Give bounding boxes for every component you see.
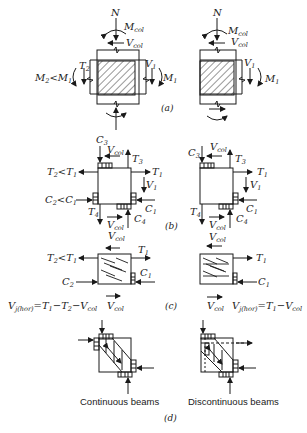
label-Mcol-left: Mcol [123, 21, 144, 34]
label-Vcol-left: Vcol [126, 37, 143, 50]
label-T4-left: T4 [88, 206, 99, 219]
panel-label-a: (a) [161, 103, 174, 113]
label-C1-b-right: C1 [246, 203, 258, 216]
label-T3-left: T3 [132, 153, 143, 166]
label-N-right: N [212, 7, 223, 18]
label-C4-left: C4 [134, 213, 146, 226]
label-Vcol-b-right-top: Vcol [210, 141, 227, 154]
caption-discontinuous-beams: Discontinuous beams [188, 396, 279, 407]
label-Vcol-c-right-bottom: Vcol [207, 300, 224, 313]
label-M2-lt-M1: M2<M1 [34, 72, 72, 85]
label-M1-left: M1 [162, 72, 177, 85]
label-Vcol-c-left-bottom: Vcol [107, 300, 124, 313]
label-V1-b-right: V1 [250, 179, 261, 192]
equation-right: Vj(hor)=T1−Vcol [232, 300, 302, 313]
label-T1-b-right: T1 [257, 166, 268, 179]
label-C4-right: C4 [236, 213, 248, 226]
label-C1-b-left: C1 [145, 203, 157, 216]
label-T1-c-right: T1 [256, 252, 267, 265]
label-T3-right: T3 [235, 153, 246, 166]
label-C2-lt-C1: C2<C1 [45, 194, 77, 207]
joint-forces-diagram: N Mcol Vcol T2 V1 M2<M1 M1 N Mcol Vcol V… [0, 0, 307, 433]
label-M1-right: M1 [264, 73, 279, 86]
equation-left: Vj(hor)=T1−T2−Vcol [8, 300, 97, 313]
label-C3-right: C3 [188, 147, 200, 160]
label-C1-c-left: C1 [140, 267, 152, 280]
panel-a-left [73, 18, 162, 130]
panel-label-b: (b) [165, 221, 178, 231]
label-C2-c: C2 [62, 276, 74, 289]
label-Vcol-b-left-top: Vcol [107, 144, 124, 157]
panel-c-right [200, 246, 257, 297]
caption-continuous-beams: Continuous beams [80, 396, 159, 407]
label-T1-b-left: T1 [152, 166, 163, 179]
label-T1-c-left: T1 [138, 244, 149, 257]
label-Vcol-c-right-top: Vcol [209, 231, 226, 244]
panel-label-d: (d) [164, 413, 177, 423]
panel-d-left [78, 320, 154, 394]
label-T2-lt-T1: T2<T1 [47, 166, 77, 179]
label-N-left: N [110, 7, 121, 18]
panel-b-right [200, 146, 257, 228]
panel-d-right [201, 320, 256, 394]
label-V1-b-left: V1 [146, 179, 157, 192]
label-T2-lt-T1-c: T2<T1 [47, 252, 77, 265]
label-T4-right: T4 [190, 206, 201, 219]
label-V1-left: V1 [145, 58, 156, 71]
label-C1-c-right: C1 [258, 276, 270, 289]
panel-label-c: (c) [165, 301, 178, 311]
